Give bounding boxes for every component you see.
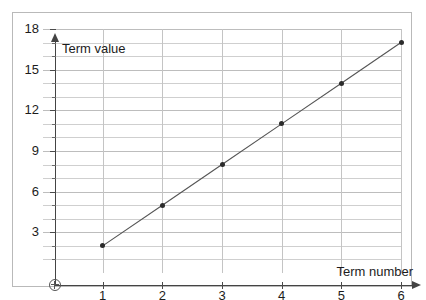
data-point	[160, 203, 165, 208]
data-point	[220, 162, 225, 167]
x-axis-tick-label: 2	[150, 289, 174, 300]
x-axis-tick-label: 6	[389, 289, 413, 300]
x-axis-tick-label: 1	[91, 289, 115, 300]
data-point	[339, 81, 344, 86]
x-axis-title: Term number	[255, 264, 413, 279]
series-line	[103, 43, 401, 246]
x-axis-tick-label: 4	[270, 289, 294, 300]
x-axis-tick-label: 5	[329, 289, 353, 300]
y-axis-title: Term value	[62, 41, 126, 56]
figure-frame: 369121518123456 Term value Term number	[12, 12, 412, 287]
chart-screenshot: 369121518123456 Term value Term number	[0, 0, 426, 300]
x-axis-arrow-icon	[412, 281, 421, 289]
x-axis-tick-label: 3	[210, 289, 234, 300]
data-point	[399, 40, 404, 45]
